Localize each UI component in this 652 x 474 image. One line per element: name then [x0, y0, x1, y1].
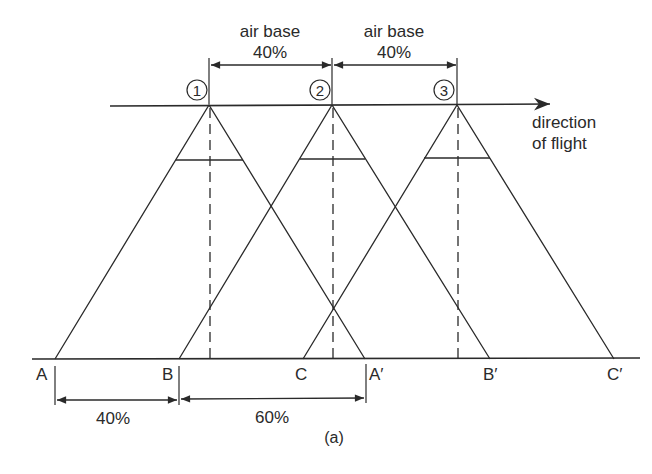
stereo-overlap-diagram: ...y ... ... g air base 40% air base 40%…	[0, 0, 652, 474]
nadir-lines	[210, 108, 458, 358]
station-3: 3	[434, 80, 454, 100]
flight-line-arrow	[110, 104, 550, 106]
station-1-label: 1	[193, 82, 201, 99]
station-3-label: 3	[440, 82, 448, 99]
air-base-1-value: 40%	[253, 43, 287, 62]
direction-label-line1: direction	[532, 113, 596, 132]
ground-label-a-prime: A′	[369, 365, 384, 384]
air-base-2-label: air base	[364, 22, 424, 41]
coverage-triangles	[55, 105, 614, 359]
station-2: 2	[310, 80, 330, 100]
ground-label-c: C	[295, 365, 307, 384]
exposure-stations: 1 2 3	[187, 80, 454, 100]
ground-label-b-prime: B′	[483, 365, 498, 384]
direction-label-line2: of flight	[532, 134, 587, 153]
air-base-1-label: air base	[240, 22, 300, 41]
ground-line	[32, 358, 640, 359]
station-1: 1	[187, 80, 207, 100]
ground-label-c-prime: C′	[607, 365, 622, 384]
ground-label-a: A	[36, 365, 48, 384]
air-base-2-value: 40%	[377, 43, 411, 62]
station-2-label: 2	[316, 82, 324, 99]
ground-labels: A B C A′ B′ C′	[36, 365, 622, 384]
figure-caption: (a)	[324, 429, 344, 446]
overlap-40-label: 40%	[96, 409, 130, 428]
ground-label-b: B	[162, 365, 173, 384]
air-base-2: air base 40%	[334, 22, 456, 65]
overlap-60-arrow	[181, 398, 364, 399]
air-base-1: air base 40%	[211, 22, 331, 65]
coverage-photo-2	[179, 105, 490, 359]
overlap-60-label: 60%	[255, 408, 289, 427]
